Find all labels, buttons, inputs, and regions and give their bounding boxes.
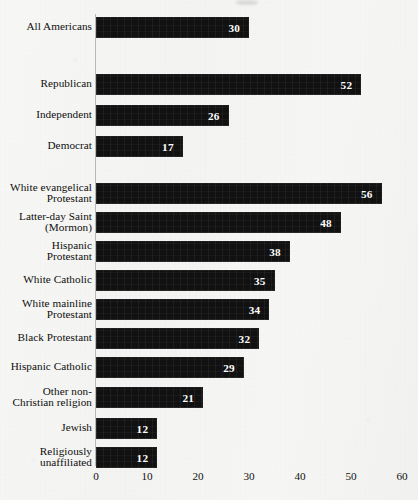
bar-value-label: 21 xyxy=(183,392,195,404)
bar-track: 12 xyxy=(96,418,157,439)
category-label-line: unaffiliated xyxy=(0,457,92,468)
bar[interactable]: 12 xyxy=(96,418,157,439)
bar-value-label: 29 xyxy=(223,362,235,374)
bar-track: 30 xyxy=(96,17,249,38)
bar[interactable]: 35 xyxy=(96,270,275,291)
category-label-line: Protestant xyxy=(0,193,92,204)
bar[interactable]: 17 xyxy=(96,136,183,157)
category-label-line: Protestant xyxy=(0,309,92,320)
bar-track: 21 xyxy=(96,387,203,408)
category-label: White mainlineProtestant xyxy=(0,298,92,321)
bar[interactable]: 12 xyxy=(96,447,157,468)
bar[interactable]: 34 xyxy=(96,299,269,320)
category-label: All Americans xyxy=(0,21,92,33)
bar-value-label: 12 xyxy=(137,452,149,464)
bar[interactable]: 26 xyxy=(96,105,229,126)
bar[interactable]: 21 xyxy=(96,387,203,408)
bar-row: White evangelicalProtestant56 xyxy=(0,183,418,204)
bar[interactable]: 30 xyxy=(96,17,249,38)
bar-row: White Catholic35 xyxy=(0,270,418,291)
category-label: White Catholic xyxy=(0,274,92,286)
category-label: Jewish xyxy=(0,422,92,434)
bar-track: 26 xyxy=(96,105,229,126)
category-label: Democrat xyxy=(0,140,92,152)
x-tick-label: 20 xyxy=(192,470,203,482)
bar-row: Latter-day Saint(Mormon)48 xyxy=(0,212,418,233)
category-label-line: (Mormon) xyxy=(0,222,92,233)
bar-value-label: 52 xyxy=(341,79,353,91)
bar-value-label: 38 xyxy=(269,246,281,258)
bar[interactable]: 56 xyxy=(96,183,382,204)
bar-track: 38 xyxy=(96,241,290,262)
x-tick-label: 40 xyxy=(294,470,305,482)
bar[interactable]: 38 xyxy=(96,241,290,262)
bar[interactable]: 29 xyxy=(96,357,244,378)
category-label: Hispanic Catholic xyxy=(0,361,92,373)
bar-value-label: 48 xyxy=(320,217,332,229)
bar-track: 17 xyxy=(96,136,183,157)
category-label: Latter-day Saint(Mormon) xyxy=(0,211,92,234)
bar-value-label: 34 xyxy=(249,304,261,316)
bar-value-label: 56 xyxy=(361,188,373,200)
category-label: HispanicProtestant xyxy=(0,240,92,263)
bar[interactable]: 32 xyxy=(96,328,259,349)
bar-track: 56 xyxy=(96,183,382,204)
category-label-line: Christian religion xyxy=(0,397,92,408)
chart-page: All Americans30Republican52Independent26… xyxy=(0,0,418,500)
bar-row: Independent26 xyxy=(0,105,418,126)
category-label: Black Protestant xyxy=(0,332,92,344)
bar-row: Hispanic Catholic29 xyxy=(0,357,418,378)
bar-value-label: 35 xyxy=(254,275,266,287)
bar-value-label: 30 xyxy=(228,22,240,34)
bar-chart-plot-area: All Americans30Republican52Independent26… xyxy=(0,0,418,500)
bar-row: Religiouslyunaffiliated12 xyxy=(0,447,418,468)
x-tick-label: 30 xyxy=(243,470,254,482)
category-label: Other non-Christian religion xyxy=(0,386,92,409)
bar-track: 29 xyxy=(96,357,244,378)
x-tick-label: 0 xyxy=(93,470,99,482)
x-tick-label: 10 xyxy=(141,470,152,482)
bar-track: 52 xyxy=(96,74,361,95)
bar-row: Jewish12 xyxy=(0,418,418,439)
bar-value-label: 26 xyxy=(208,110,220,122)
bar-row: White mainlineProtestant34 xyxy=(0,299,418,320)
category-label: Religiouslyunaffiliated xyxy=(0,446,92,469)
bar-row: Republican52 xyxy=(0,74,418,95)
bar[interactable]: 48 xyxy=(96,212,341,233)
category-label: White evangelicalProtestant xyxy=(0,182,92,205)
bar-track: 35 xyxy=(96,270,275,291)
x-tick-label: 60 xyxy=(396,470,407,482)
category-label-line: Protestant xyxy=(0,251,92,262)
bar-value-label: 17 xyxy=(162,141,174,153)
x-tick-label: 50 xyxy=(345,470,356,482)
bar-row: Democrat17 xyxy=(0,136,418,157)
bar-track: 34 xyxy=(96,299,269,320)
bar-track: 48 xyxy=(96,212,341,233)
bar-row: HispanicProtestant38 xyxy=(0,241,418,262)
bar-value-label: 32 xyxy=(239,333,251,345)
bar-value-label: 12 xyxy=(137,423,149,435)
bar-track: 12 xyxy=(96,447,157,468)
bar-track: 32 xyxy=(96,328,259,349)
x-axis-tick-labels: 0102030405060 xyxy=(0,470,418,490)
bar-row: All Americans30 xyxy=(0,17,418,38)
bar-row: Black Protestant32 xyxy=(0,328,418,349)
category-label: Independent xyxy=(0,109,92,121)
bar-row: Other non-Christian religion21 xyxy=(0,387,418,408)
category-label: Republican xyxy=(0,78,92,90)
bar[interactable]: 52 xyxy=(96,74,361,95)
